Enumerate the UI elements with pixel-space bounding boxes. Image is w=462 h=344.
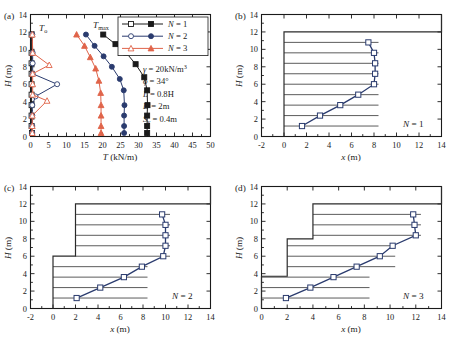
panel-c: -20246810121402468101214 (c) N = 2 x (m)… <box>0 172 231 344</box>
panel-a-data-marker <box>113 42 118 47</box>
panel-b-xtick-label: 0 <box>282 141 286 150</box>
panel-c-failure-surface-marker <box>163 243 168 248</box>
panel-b-ytick-label: 8 <box>254 63 258 72</box>
panel-a-xtick-label: 40 <box>170 141 178 150</box>
panel-a-xtick-label: 10 <box>62 141 70 150</box>
panel-d-xaxis-title: x (m) <box>340 324 361 334</box>
panel-d-failure-surface-marker <box>377 254 382 259</box>
panel-a-yaxis-title: H (m) <box>3 65 13 88</box>
panel-a-legend-label: N = 1 <box>167 19 187 29</box>
panel-d-yaxis-title: H (m) <box>234 237 244 260</box>
panel-d-ytick-label: 10 <box>250 217 258 226</box>
panel-d-failure-surface-marker <box>308 285 313 290</box>
panel-a-data-marker <box>122 103 127 108</box>
panel-b-ytick-label: 14 <box>250 11 259 20</box>
panel-b-ytick-label: 2 <box>254 115 258 124</box>
panel-a-data-marker <box>98 113 104 119</box>
panel-a-ytick-label: 4 <box>23 98 28 107</box>
panel-b-failure-surface-marker <box>338 103 343 108</box>
panel-a-data-marker <box>122 124 127 129</box>
panel-a-data-marker <box>117 76 122 81</box>
panel-c-failure-surface-marker <box>121 275 126 280</box>
panel-a-legend-label: N = 2 <box>167 31 187 41</box>
panel-a-data-marker <box>83 32 88 37</box>
panel-a-parameter: γ = 20kN/m3 <box>143 63 187 74</box>
panel-a-ytick-label: 14 <box>19 11 28 20</box>
panel-d-ytick-label: 4 <box>254 270 259 279</box>
panel-b-xtick-label: 6 <box>349 141 353 150</box>
panel-b-xtick-label: 2 <box>304 141 308 150</box>
panel-a-legend-marker-filled <box>149 34 154 39</box>
panel-b-xtick-label: 10 <box>392 141 400 150</box>
panel-a-data-marker <box>145 131 150 136</box>
panel-d-xtick-label: 2 <box>285 313 289 322</box>
panel-a: 0510152025303540455002468101214 (a) To T… <box>0 0 231 172</box>
panel-a-data-marker <box>30 61 35 66</box>
panel-c-xaxis-title: x (m) <box>109 324 130 334</box>
panel-c-xtick-label: 0 <box>51 313 55 322</box>
panel-c-svg: -20246810121402468101214 (c) N = 2 x (m)… <box>0 172 231 344</box>
panel-a-xaxis-title: T (kN/m) <box>103 152 137 162</box>
panel-d-ytick-label: 0 <box>254 305 258 314</box>
panel-a-data-marker <box>122 113 127 118</box>
panel-d-ytick-label: 12 <box>250 200 258 209</box>
panel-c-xtick-label: 10 <box>161 313 169 322</box>
panel-d-ytick-label: 2 <box>254 287 258 296</box>
panel-b-ytick-label: 10 <box>250 45 258 54</box>
panel-b-failure-surface-marker <box>299 123 304 128</box>
panel-c-failure-surface-marker <box>98 285 103 290</box>
panel-a-xtick-label: 15 <box>80 141 88 150</box>
panel-d-svg: 0246810121402468101214 (d) N = 3 x (m) H… <box>231 172 462 344</box>
panel-a-legend-label: N = 3 <box>167 43 187 53</box>
panel-c-xtick-label: 12 <box>184 313 192 322</box>
panel-c-yaxis-title: H (m) <box>3 237 13 260</box>
panel-b-svg: -20246810121402468101214 (b) N = 1 x (m)… <box>231 0 462 172</box>
panel-a-data-marker <box>92 43 97 48</box>
panel-c-ytick-label: 2 <box>23 287 27 296</box>
panel-a-xtick-label: 35 <box>152 141 160 150</box>
panel-c-xtick-label: 14 <box>206 313 215 322</box>
panel-d-ytick-label: 8 <box>254 235 258 244</box>
panel-a-ytick-label: 6 <box>23 80 27 89</box>
panel-a-ytick-label: 8 <box>23 63 27 72</box>
panel-b: -20246810121402468101214 (b) N = 1 x (m)… <box>231 0 462 172</box>
panel-a-data-marker <box>74 32 80 38</box>
panel-a-data-marker <box>98 102 104 108</box>
panel-a-data-marker <box>55 82 60 87</box>
panel-a-xtick-label: 30 <box>134 141 142 150</box>
panel-c-ytick-label: 10 <box>19 217 27 226</box>
panel-a-xtick-label: 50 <box>206 141 214 150</box>
panel-c-case-label: N = 2 <box>171 291 193 301</box>
panel-b-xaxis-title: x (m) <box>340 152 361 162</box>
panel-a-series-line <box>32 35 57 133</box>
panel-a-data-marker <box>121 88 126 93</box>
panel-a-svg: 0510152025303540455002468101214 (a) To T… <box>0 0 231 172</box>
panel-b-failure-surface-marker <box>371 82 376 87</box>
panel-c-ytick-label: 0 <box>23 305 27 314</box>
panel-b-ytick-label: 6 <box>254 80 258 89</box>
panel-c-failure-surface-marker <box>161 254 166 259</box>
panel-b-failure-surface-marker <box>373 71 378 76</box>
panel-a-data-marker <box>46 62 52 67</box>
panel-b-xtick-label: 4 <box>327 141 332 150</box>
panel-a-legend-marker-open <box>129 34 134 39</box>
panel-d: 0246810121402468101214 (d) N = 3 x (m) H… <box>231 172 462 344</box>
panel-d-failure-surface-marker <box>354 264 359 269</box>
panel-c-tag: (c) <box>4 183 14 193</box>
panel-b-xtick-label: -2 <box>258 141 265 150</box>
panel-b-failure-surface-marker <box>371 50 376 55</box>
panel-b-xtick-label: 12 <box>415 141 423 150</box>
panel-a-data-marker <box>101 54 106 59</box>
panel-a-parameter: ϕ = 34° <box>143 76 169 86</box>
panel-d-failure-surface-marker <box>331 275 336 280</box>
panel-a-ytick-label: 12 <box>19 28 27 37</box>
panel-a-data-marker <box>133 62 138 67</box>
panel-d-tag: (d) <box>235 183 246 193</box>
panel-c-failure-surface-marker <box>160 212 165 217</box>
panel-c-failure-surface-marker <box>139 264 144 269</box>
panel-d-failure-surface-marker <box>412 222 417 227</box>
panel-a-data-marker <box>30 103 35 108</box>
panel-d-case-label: N = 3 <box>402 291 424 301</box>
panel-a-data-marker <box>101 32 106 37</box>
panel-c-xtick-label: 6 <box>118 313 122 322</box>
